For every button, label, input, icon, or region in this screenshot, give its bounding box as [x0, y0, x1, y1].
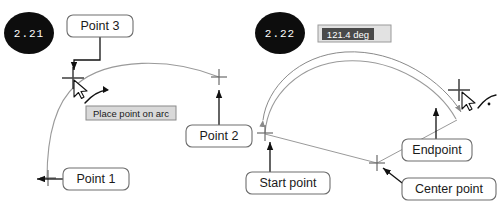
callout-label: Point 1 [77, 172, 116, 186]
leader-line [74, 37, 100, 70]
callout-label: Center point [415, 182, 484, 196]
crosshair-marker-icon [257, 125, 273, 141]
figure-2-21: 2.21 Point 3 Place point on arc Point 2 [4, 12, 252, 190]
callout-point-2[interactable]: Point 2 [186, 125, 252, 147]
callout-label: Point 3 [81, 19, 120, 33]
figure-badge-label: 2.21 [14, 28, 44, 40]
mouse-cursor-icon [462, 92, 475, 111]
crosshair-marker-icon [369, 155, 385, 171]
crosshair-marker-icon [211, 69, 227, 85]
arc-hint-icon [478, 95, 496, 108]
figure-badge: 2.22 [255, 12, 305, 54]
callout-point-1[interactable]: Point 1 [63, 168, 129, 190]
radius-line-start [265, 134, 377, 163]
callout-label: Point 2 [200, 129, 239, 143]
callout-center-point[interactable]: Center point [402, 178, 496, 200]
callout-label: Start point [260, 176, 318, 190]
figure-2-22: 2.22 121.4 deg Start point Center point [246, 12, 496, 200]
mouse-cursor-icon [74, 80, 87, 99]
figure-badge-label: 2.22 [265, 28, 295, 40]
crosshair-marker-icon [40, 170, 56, 186]
tooltip-label: Place point on arc [93, 108, 169, 119]
figure-badge: 2.21 [4, 12, 54, 54]
callout-point-3[interactable]: Point 3 [67, 15, 133, 37]
dimension-arc [263, 52, 461, 120]
callout-endpoint[interactable]: Endpoint [402, 139, 472, 161]
arc-hint-icon [85, 86, 109, 103]
callout-label: Endpoint [412, 143, 462, 157]
arc-curve-right [265, 61, 456, 133]
angle-input[interactable]: 121.4 deg [318, 25, 391, 42]
figure-canvas: 2.21 Point 3 Place point on arc Point 2 [0, 0, 502, 210]
place-point-on-arc-tooltip: Place point on arc [86, 106, 176, 120]
callout-start-point[interactable]: Start point [246, 172, 330, 194]
angle-input-value: 121.4 deg [327, 29, 369, 40]
